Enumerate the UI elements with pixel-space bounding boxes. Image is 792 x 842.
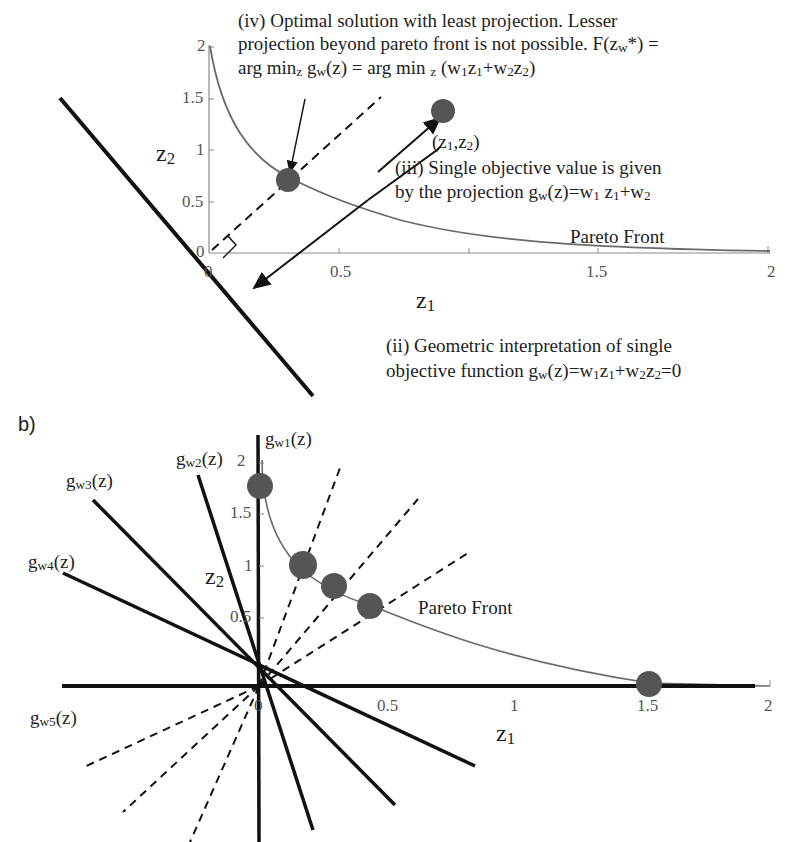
panel-a-x-tick-0: 0 xyxy=(204,262,213,282)
panel-a-x-tick-1.5: 1.5 xyxy=(586,262,607,282)
pareto-point-2 xyxy=(289,551,317,579)
panel-b-label: b) xyxy=(18,413,36,436)
panel-a-zero-level-line xyxy=(60,98,313,396)
panel-b-y-tick-0.5: 0.5 xyxy=(230,607,251,627)
annotation-iv-line1: (iv) Optimal solution with least project… xyxy=(238,9,617,33)
panel-a-x-tick-2: 2 xyxy=(767,262,776,282)
point-label: (z1,z2) xyxy=(432,130,480,158)
annotation-iv-arrow xyxy=(290,99,305,172)
annotation-ii-line2: objective function gw(z)=w1z1+w2z2=0 xyxy=(386,359,681,387)
pareto-point-4 xyxy=(357,593,383,619)
panel-a-y-tick-1: 1 xyxy=(196,140,205,160)
annotation-iv-line3: arg minz gw(z) = arg min z (w1z1+w2z2) xyxy=(238,56,535,84)
panel-a-y-ticks xyxy=(209,47,214,202)
weight-label-gw4: gw4(z) xyxy=(28,551,75,577)
weight-label-gw5: gw5(z) xyxy=(30,707,77,733)
panel-a-y-axis-title: z2 xyxy=(156,140,175,169)
panel-b xyxy=(62,435,770,842)
optimal-point xyxy=(276,168,300,192)
panel-b-x-tick-1: 1 xyxy=(510,696,519,716)
annotation-iii-line2: by the projection gw(z)=w1 z1+w2 xyxy=(395,180,651,208)
objective-point xyxy=(431,99,455,123)
weight-label-gw1: gw1(z) xyxy=(265,428,312,454)
panel-a-y-tick-0: 0 xyxy=(196,242,205,262)
panel-a-y-tick-2: 2 xyxy=(197,36,206,56)
panel-b-x-tick-1.5: 1.5 xyxy=(637,696,658,716)
panel-a-x-axis-title: z1 xyxy=(416,287,435,316)
annotation-iii-line1: (iii) Single objective value is given xyxy=(395,156,661,180)
pareto-point-1 xyxy=(247,473,273,499)
panel-a-y-tick-1.5: 1.5 xyxy=(182,88,203,108)
panel-b-x-axis-title: z1 xyxy=(496,720,515,749)
weight-label-gw2: gw2(z) xyxy=(176,448,223,474)
annotation-ii-line1: (ii) Geometric interpretation of single xyxy=(386,334,672,358)
panel-a-x-tick-0.5: 0.5 xyxy=(330,262,351,282)
panel-b-x-tick-0.5: 0.5 xyxy=(377,696,398,716)
weight-line-gw2 xyxy=(198,475,313,830)
panel-a-y-tick-0.5: 0.5 xyxy=(182,192,203,212)
weight-line-gw3 xyxy=(93,500,395,805)
panel-b-x-tick-2: 2 xyxy=(764,696,773,716)
panel-b-x-tick-0: 0 xyxy=(254,696,263,716)
panel-a-curve-label: Pareto Front xyxy=(570,226,664,248)
panel-b-normal-dashed-lines xyxy=(82,468,468,842)
weight-line-gw4 xyxy=(63,573,475,766)
panel-b-curve-label: Pareto Front xyxy=(418,597,512,619)
panel-b-pareto-curve xyxy=(262,460,770,686)
panel-b-y-axis-title: z2 xyxy=(205,563,224,592)
pareto-point-5 xyxy=(636,671,662,697)
weight-label-gw3: gw3(z) xyxy=(66,470,113,496)
panel-b-y-tick-1.5: 1.5 xyxy=(230,503,251,523)
panel-b-y-tick-1: 1 xyxy=(244,556,253,576)
panel-b-y-tick-2: 2 xyxy=(237,451,246,471)
pareto-point-3 xyxy=(321,573,347,599)
